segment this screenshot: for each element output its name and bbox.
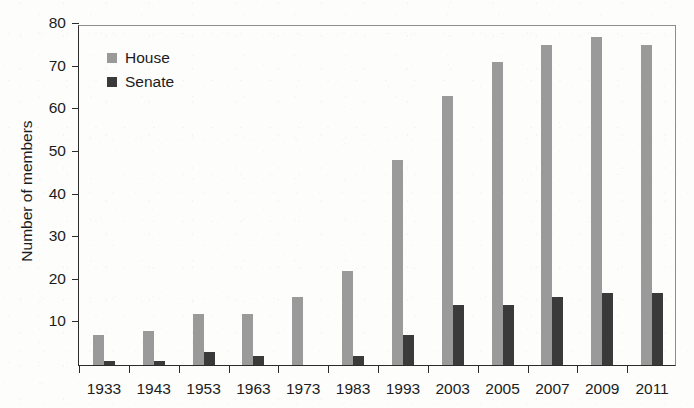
y-axis-tick: 70 bbox=[72, 66, 79, 67]
y-axis-tick-label: 20 bbox=[49, 270, 66, 288]
bar-group bbox=[392, 24, 414, 365]
y-axis-title: Number of members bbox=[18, 91, 36, 291]
bar-senate bbox=[602, 293, 613, 365]
scan-bleed-artifact bbox=[420, 4, 424, 16]
legend-swatch-icon bbox=[107, 53, 117, 63]
legend-item-senate: Senate bbox=[107, 70, 174, 94]
legend-label: House bbox=[125, 49, 170, 67]
legend-label: Senate bbox=[125, 73, 174, 91]
y-axis-tick: 50 bbox=[72, 151, 79, 152]
bar-group bbox=[442, 24, 464, 365]
legend: HouseSenate bbox=[107, 46, 174, 94]
bar-senate bbox=[353, 356, 364, 365]
x-axis-tick bbox=[79, 365, 80, 373]
bar-house bbox=[392, 160, 403, 365]
bar-group bbox=[342, 24, 364, 365]
bar-house bbox=[292, 297, 303, 365]
x-axis-tick bbox=[478, 365, 479, 373]
x-axis-tick bbox=[378, 365, 379, 373]
bar-senate bbox=[204, 352, 215, 365]
bar-group bbox=[242, 24, 264, 365]
y-axis-tick-label: 80 bbox=[49, 14, 66, 32]
bar-house bbox=[492, 62, 503, 365]
bar-house bbox=[242, 314, 253, 365]
y-axis-tick: 20 bbox=[72, 279, 79, 280]
y-axis-tick-label: 10 bbox=[49, 312, 66, 330]
y-axis-tick-label: 60 bbox=[49, 99, 66, 117]
bar-group bbox=[541, 24, 563, 365]
bar-group bbox=[641, 24, 663, 365]
x-axis-tick bbox=[577, 365, 578, 373]
y-axis-tick-label: 30 bbox=[49, 227, 66, 245]
bar-senate bbox=[154, 361, 165, 365]
y-axis-tick-label: 40 bbox=[49, 185, 66, 203]
x-axis-tick bbox=[278, 365, 279, 373]
x-axis-tick bbox=[627, 365, 628, 373]
x-axis-tick bbox=[428, 365, 429, 373]
y-axis-tick: 40 bbox=[72, 194, 79, 195]
y-axis-tick-label: 70 bbox=[49, 57, 66, 75]
y-axis-tick-label: 50 bbox=[49, 142, 66, 160]
y-axis-tick: 10 bbox=[72, 321, 79, 322]
y-axis-tick: 60 bbox=[72, 108, 79, 109]
bar-senate bbox=[652, 293, 663, 365]
chart-page: Number of members 1020304050607080 19331… bbox=[0, 0, 694, 408]
bar-senate bbox=[453, 305, 464, 365]
bar-house bbox=[591, 37, 602, 365]
x-axis-tick bbox=[129, 365, 130, 373]
x-axis-tick bbox=[328, 365, 329, 373]
bar-house bbox=[193, 314, 204, 365]
bar-group bbox=[492, 24, 514, 365]
bar-house bbox=[541, 45, 552, 365]
bar-house bbox=[93, 335, 104, 365]
y-axis-tick: 80 bbox=[72, 23, 79, 24]
x-axis-tick bbox=[179, 365, 180, 373]
y-axis-tick: 30 bbox=[72, 236, 79, 237]
bar-group bbox=[292, 24, 314, 365]
bar-senate bbox=[403, 335, 414, 365]
bar-senate bbox=[104, 361, 115, 365]
bar-senate bbox=[503, 305, 514, 365]
x-axis-tick-label: 2011 bbox=[622, 380, 682, 398]
bar-senate bbox=[253, 356, 264, 365]
bar-house bbox=[143, 331, 154, 365]
x-axis-tick bbox=[229, 365, 230, 373]
legend-item-house: House bbox=[107, 46, 174, 70]
bar-group bbox=[591, 24, 613, 365]
bar-senate bbox=[552, 297, 563, 365]
bar-house bbox=[442, 96, 453, 365]
bar-house bbox=[342, 271, 353, 365]
bar-house bbox=[641, 45, 652, 365]
x-axis-tick bbox=[528, 365, 529, 373]
legend-swatch-icon bbox=[107, 77, 117, 87]
bar-group bbox=[193, 24, 215, 365]
